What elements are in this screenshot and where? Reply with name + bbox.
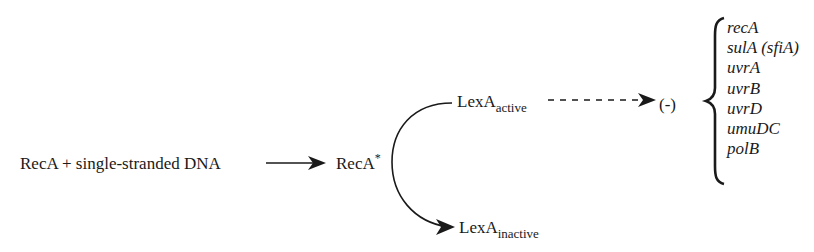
reca-activated-label: RecA*: [336, 155, 381, 172]
reactants-label: RecA + single-stranded DNA: [20, 155, 221, 172]
gene-item: uvrD: [727, 99, 799, 119]
reca-base: RecA: [336, 154, 375, 173]
cleavage-curve-arrow: [392, 103, 455, 235]
repression-symbol: (-): [659, 95, 676, 115]
activation-arrow: [266, 156, 326, 170]
lexa-inactive-base: LexA: [459, 218, 498, 237]
lexa-inactive-label: LexAinactive: [459, 219, 539, 236]
lexa-active-base: LexA: [457, 92, 496, 111]
lexa-active-subscript: active: [496, 100, 527, 115]
gene-item: uvrB: [727, 79, 799, 99]
reca-superscript: *: [375, 151, 381, 165]
gene-item: polB: [727, 139, 799, 159]
lexa-inactive-subscript: inactive: [498, 226, 539, 241]
gene-item: recA: [727, 18, 799, 38]
repressed-gene-list: recA sulA (sfiA) uvrA uvrB uvrD umuDC po…: [727, 18, 799, 159]
lexa-active-label: LexAactive: [457, 93, 527, 110]
gene-item: sulA (sfiA): [727, 38, 799, 58]
gene-item: uvrA: [727, 58, 799, 78]
diagram-arrows: [0, 0, 814, 252]
gene-list-brace: [706, 18, 724, 184]
gene-item: umuDC: [727, 119, 799, 139]
repression-dashed-arrow: [548, 93, 656, 107]
